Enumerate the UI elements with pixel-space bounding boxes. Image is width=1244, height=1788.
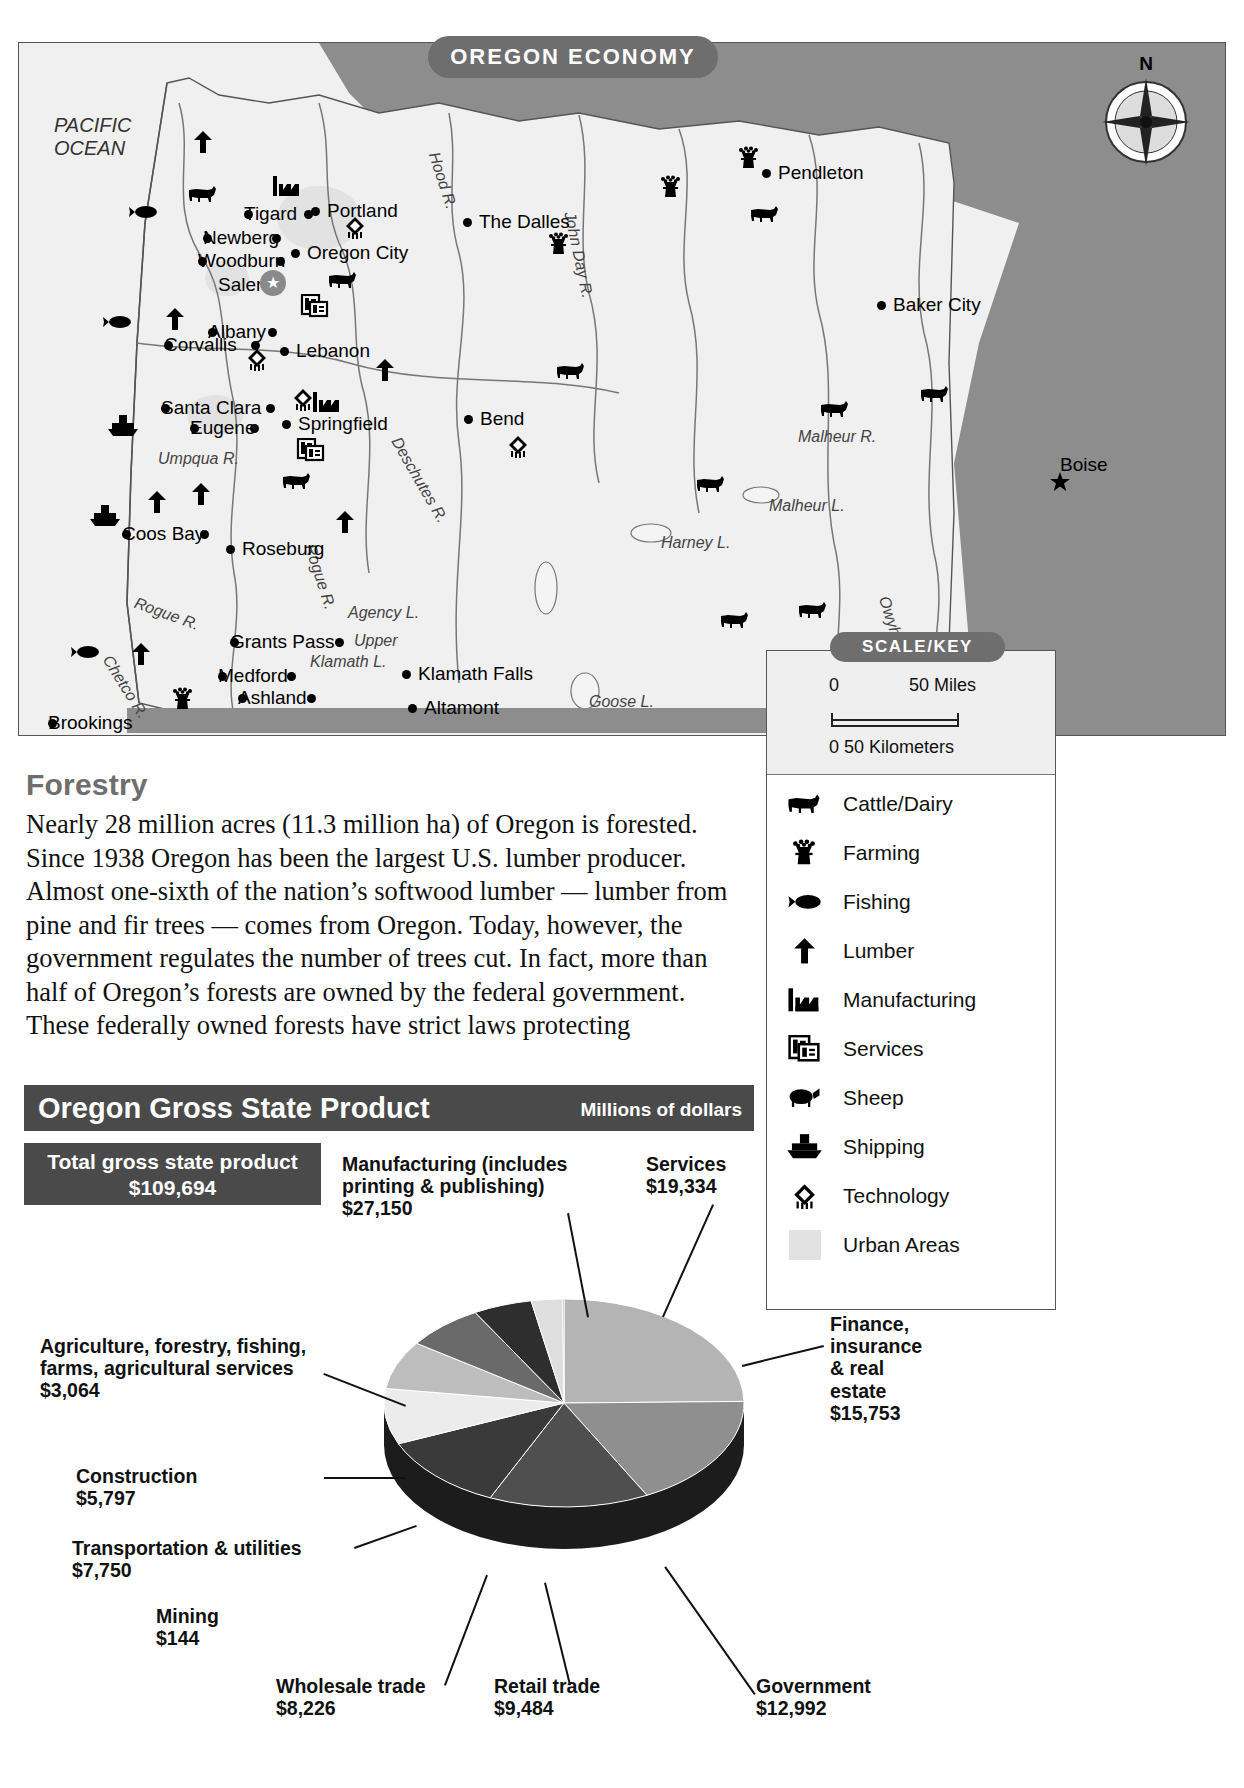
city-dot-the-dalles xyxy=(463,218,472,227)
pie-label-wholesale-trade: Wholesale trade $8,226 xyxy=(276,1675,426,1719)
map-lumber-icon xyxy=(186,130,220,154)
city-dot-ashland-b xyxy=(307,694,316,703)
key-item-urban-areas: Urban Areas xyxy=(767,1220,1055,1269)
key-item-label: Sheep xyxy=(843,1086,904,1110)
city-dot-roseburg xyxy=(226,545,235,554)
pie-label-amount: $7,750 xyxy=(72,1559,132,1581)
key-item-shipping: Shipping xyxy=(767,1122,1055,1171)
city-label-altamont: Altamont xyxy=(424,697,499,719)
map-manufacturing-icon xyxy=(310,390,344,414)
map-lumber-icon xyxy=(368,358,402,382)
forestry-section: Forestry Nearly 28 million acres (11.3 m… xyxy=(26,768,752,1043)
city-label-springfield: Springfield xyxy=(298,413,388,435)
water-label: Umpqua R. xyxy=(158,450,239,468)
key-item-label: Lumber xyxy=(843,939,914,963)
pie-label-agriculture-forestry-fishing: Agriculture, forestry, fishing, farms, a… xyxy=(40,1335,330,1402)
pie-label-name: Transportation & utilities xyxy=(72,1537,302,1559)
map-cattle-icon xyxy=(554,359,588,383)
total-gsp-value: $109,694 xyxy=(24,1175,321,1201)
forestry-body: Nearly 28 million acres (11.3 million ha… xyxy=(26,808,752,1043)
city-label-pendleton: Pendleton xyxy=(778,162,864,184)
map-title: OREGON ECONOMY xyxy=(428,36,718,78)
map-lumber-icon xyxy=(158,307,192,331)
pie-label-transportation-utilities: Transportation & utilities $7,750 xyxy=(72,1537,302,1581)
key-item-label: Shipping xyxy=(843,1135,925,1159)
key-item-label: Fishing xyxy=(843,890,911,914)
pie-leader-line xyxy=(444,1575,488,1686)
city-label-the-dalles: The Dalles xyxy=(479,211,570,233)
city-dot-bend xyxy=(464,415,473,424)
chart-subtitle: Millions of dollars xyxy=(580,1099,742,1121)
map-lumber-icon xyxy=(124,642,158,666)
city-label-bend: Bend xyxy=(480,408,524,430)
city-label-santa-clara: Santa Clara xyxy=(161,397,261,419)
map-farming-icon xyxy=(542,232,576,256)
city-dot-grants-pass-b xyxy=(335,638,344,647)
map-cattle-icon xyxy=(280,469,314,493)
pie-label-amount: $5,797 xyxy=(76,1487,136,1509)
pie-label-amount: $19,334 xyxy=(646,1175,717,1197)
scale-bar xyxy=(831,713,959,727)
pie-label-name: Mining xyxy=(156,1605,219,1627)
map-manufacturing-icon xyxy=(270,174,304,198)
key-item-lumber: Lumber xyxy=(767,926,1055,975)
chart-header-bar: Oregon Gross State Product Millions of d… xyxy=(24,1085,754,1131)
city-label-ashland: Ashland xyxy=(238,687,307,709)
scale-key-box: 0 50 Miles 0 50 Kilometers Cattle/Dairy … xyxy=(766,650,1056,1310)
map-fishing-icon xyxy=(126,200,160,224)
map-shipping-icon xyxy=(88,504,122,528)
capital-star-boise xyxy=(1050,472,1070,492)
map-lumber-icon xyxy=(184,482,218,506)
pie-leader-line xyxy=(324,1477,406,1479)
map-fishing-icon xyxy=(68,640,102,664)
water-label: Harney L. xyxy=(661,534,730,552)
map-lumber-icon xyxy=(140,490,174,514)
map-overlay-layer: Hood R.John Day R.Deschutes R.Umpqua R.R… xyxy=(18,42,1226,736)
map-cattle-icon xyxy=(796,598,830,622)
water-label: Klamath L. xyxy=(310,653,386,671)
pie-label-name: Retail trade xyxy=(494,1675,600,1697)
pie-label-amount: $9,484 xyxy=(494,1697,554,1719)
city-label-woodburn: Woodburn xyxy=(198,250,285,272)
pie-label-finance-insurance-real-estat: Finance, insurance & real estate $15,753 xyxy=(830,1313,922,1424)
pie-label-amount: $27,150 xyxy=(342,1197,413,1219)
pie-label-manufacturing-includes-print: Manufacturing (includes printing & publi… xyxy=(342,1153,592,1220)
city-label-klamath-falls: Klamath Falls xyxy=(418,663,533,685)
scale-key-title: SCALE/KEY xyxy=(830,632,1005,662)
map-technology-icon xyxy=(501,434,535,458)
map-farming-icon xyxy=(654,175,688,199)
scale-km-label: 0 50 Kilometers xyxy=(829,737,954,758)
key-item-label: Technology xyxy=(843,1184,949,1208)
map-lumber-icon xyxy=(328,510,362,534)
water-label: Hood R. xyxy=(425,150,460,211)
oregon-economy-map: OREGON ECONOMY PACIFIC OCEAN N Hood R.Jo… xyxy=(18,18,1226,760)
water-label: Upper xyxy=(354,632,398,650)
total-gsp-box: Total gross state product $109,694 xyxy=(24,1143,321,1205)
farming-icon xyxy=(767,839,843,867)
key-item-fishing: Fishing xyxy=(767,877,1055,926)
pie-label-amount: $3,064 xyxy=(40,1379,100,1401)
pie-label-retail-trade: Retail trade $9,484 xyxy=(494,1675,600,1719)
pie-chart xyxy=(354,1235,774,1565)
map-technology-icon xyxy=(240,347,274,371)
city-dot-baker-city xyxy=(877,301,886,310)
key-item-label: Urban Areas xyxy=(843,1233,960,1257)
map-cattle-icon xyxy=(326,268,360,292)
pie-label-name: Government xyxy=(756,1675,871,1697)
cattle-icon xyxy=(767,790,843,818)
city-dot-oregon-city xyxy=(291,249,300,258)
pie-label-name: Wholesale trade xyxy=(276,1675,426,1697)
key-item-cattle-dairy: Cattle/Dairy xyxy=(767,779,1055,828)
city-dot-albany-b xyxy=(268,328,277,337)
pie-slices xyxy=(384,1299,744,1507)
pie-label-amount: $144 xyxy=(156,1627,199,1649)
pie-label-name: Agriculture, forestry, fishing, farms, a… xyxy=(40,1335,306,1379)
city-label-lebanon: Lebanon xyxy=(296,340,370,362)
map-shipping-icon xyxy=(106,414,140,438)
water-label: Malheur L. xyxy=(769,497,845,515)
sheep-icon xyxy=(767,1084,843,1112)
map-cattle-icon xyxy=(186,182,220,206)
city-label-medford: Medford xyxy=(218,665,288,687)
water-label: Agency L. xyxy=(348,604,419,622)
scale-section: 0 50 Miles 0 50 Kilometers xyxy=(767,651,1055,775)
